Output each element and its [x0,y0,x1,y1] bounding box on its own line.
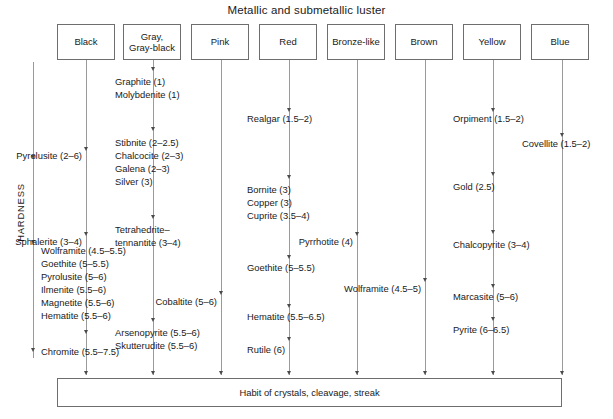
category-label-blue: Blue [550,36,569,48]
flow-arrow-red-6 [287,371,291,375]
flow-arrow-black-4 [84,371,88,375]
mineral-label-gray-tetrahedrite-line1: Tetrahedrite– [115,224,170,237]
mineral-label-gray-silver: Silver (3) [115,176,153,189]
mineral-label-red-cuprite: Cuprite (3.5–4) [247,210,310,223]
hardness-axis-tick-3 [31,348,35,352]
flow-line-brown [425,60,426,375]
mineral-label-gray-galena: Galena (2–3) [115,163,170,176]
flow-arrow-yellow-5 [491,317,495,321]
flow-line-blue [562,60,563,375]
category-label-red: Red [279,36,296,48]
flow-arrow-gray-4 [151,318,155,322]
mineral-label-red-bornite: Bornite (3) [247,184,291,197]
flow-arrow-gray-1 [151,67,155,71]
flow-arrow-yellow-6 [491,371,495,375]
flow-arrow-gray-2 [151,127,155,131]
flow-arrow-black-2 [84,232,88,236]
mineral-label-black-wolframite: Wolframite (4.5–5.5) [41,245,126,258]
category-box-blue[interactable]: Blue [531,24,589,60]
category-box-red[interactable]: Red [259,24,317,60]
mineral-label-black-pyrolusite: Pyrolusite (2–6) [0,150,82,163]
flow-arrow-yellow-2 [491,172,495,176]
flow-arrow-red-1 [287,108,291,112]
mineral-label-red-realgar: Realgar (1.5–2) [247,113,312,126]
mineral-label-pink-cobaltite: Cobaltite (5–6) [87,296,217,309]
flow-arrow-brown-2 [423,371,427,375]
category-box-pink[interactable]: Pink [191,24,249,60]
flow-arrow-blue-1 [560,133,564,137]
flow-arrow-yellow-4 [491,284,495,288]
mineral-label-black-pyrolusite-2: Pyrolusite (5–6) [41,271,107,284]
mineral-label-red-goethite: Goethite (5–5.5) [247,262,315,275]
flow-arrow-red-5 [287,337,291,341]
hardness-axis-line [33,62,34,358]
mineral-label-gray-graphite: Graphite (1) [115,76,165,89]
mineral-label-gray-tetrahedrite-line2: tennantite (3–4) [115,237,181,250]
category-label-brown: Brown [411,36,438,48]
flow-arrow-brown-1 [423,278,427,282]
category-label-gray-line2: Gray-black [129,42,175,54]
category-label-gray-line1: Gray, [129,31,175,43]
mineral-label-gray-molybdenite: Molybdenite (1) [115,89,180,102]
flow-arrow-pink-2 [219,371,223,375]
category-label-yellow: Yellow [478,36,505,48]
footer-label: Habit of crystals, cleavage, streak [239,387,379,398]
mineral-label-black-ilmenite: Ilmenite (5.5–6) [41,284,106,297]
mineral-label-black-hematite: Hematite (5.5–6) [41,310,111,323]
mineral-label-gray-arsenopyrite: Arsenopyrite (5.5–6) [115,327,200,340]
category-box-gray[interactable]: Gray, Gray-black [123,24,181,60]
mineral-label-gray-chalcocite: Chalcocite (2–3) [115,150,183,163]
flow-line-pink [221,60,222,375]
flow-arrow-red-2 [287,175,291,179]
mineral-label-yellow-orpiment: Orpiment (1.5–2) [453,113,524,126]
mineral-label-yellow-chalcopyrite: Chalcopyrite (3–4) [453,239,530,252]
flow-arrow-red-4 [287,304,291,308]
flow-arrow-bronze-like-2 [355,371,359,375]
flow-arrow-pink-1 [219,291,223,295]
flow-line-black [86,60,87,375]
mineral-label-blue-covellite: Covellite (1.5–2) [522,138,590,151]
mineral-label-yellow-gold: Gold (2.5) [453,181,495,194]
category-box-black[interactable]: Black [57,24,115,60]
mineral-label-yellow-marcasite: Marcasite (5–6) [453,291,518,304]
flow-line-bronze-like [357,60,358,375]
mineral-label-gray-stibnite: Stibnite (2–2.5) [115,137,179,150]
category-box-brown[interactable]: Brown [395,24,453,60]
category-label-bronze-like: Bronze-like [332,36,380,48]
flow-arrow-blue-2 [560,371,564,375]
figure-canvas: Metallic and submetallic luster HARDNESS… [0,0,613,419]
flow-arrow-yellow-1 [491,108,495,112]
flow-arrow-gray-3 [151,215,155,219]
mineral-label-brown-wolframite: Wolframite (4.5–5) [291,283,421,296]
category-label-pink: Pink [211,36,229,48]
mineral-label-gray-skutterudite: Skutterudite (5.5–6) [115,340,197,353]
mineral-label-yellow-pyrite: Pyrite (6–6.5) [453,324,509,337]
mineral-label-black-goethite: Goethite (5–5.5) [41,258,109,271]
category-box-bronze-like[interactable]: Bronze-like [327,24,385,60]
flow-arrow-bronze-like-1 [355,232,359,236]
mineral-label-red-copper: Copper (3) [247,197,292,210]
category-box-yellow[interactable]: Yellow [463,24,521,60]
flow-arrow-black-1 [84,147,88,151]
flow-arrow-red-3 [287,255,291,259]
figure-title: Metallic and submetallic luster [0,4,613,16]
mineral-label-black-chromite: Chromite (5.5–7.5) [41,346,119,359]
category-label-black: Black [74,36,97,48]
flow-arrow-yellow-3 [491,230,495,234]
mineral-label-bronze-like-pyrrhotite: Pyrrhotite (4) [223,236,353,249]
flow-arrow-gray-5 [151,371,155,375]
footer-box[interactable]: Habit of crystals, cleavage, streak [57,378,562,407]
mineral-label-red-rutile: Rutile (6) [247,344,285,357]
mineral-label-red-hematite: Hematite (5.5–6.5) [247,311,325,324]
flow-arrow-black-3 [84,330,88,334]
